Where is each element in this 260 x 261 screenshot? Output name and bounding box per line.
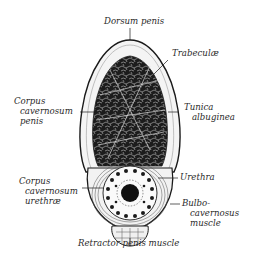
label-bulbocavernosus-muscle: Bulbo- cavernosus muscle — [182, 198, 239, 228]
label-trabeculae: Trabeculæ — [172, 48, 219, 58]
label-retractor-penis-muscle: Retractor penis muscle — [78, 238, 179, 248]
label-corpus-cavernosum-penis: Corpus cavernosum penis — [14, 96, 73, 126]
label-urethra: Urethra — [180, 172, 215, 182]
label-tunica-albuginea: Tunica albuginea — [184, 102, 235, 122]
cross-section-diagram: Dorsum penis Trabeculæ Corpus cavernosum… — [0, 0, 260, 261]
urethra-shape — [121, 184, 139, 202]
label-corpus-cavernosum-urethrae: Corpus cavernosum urethræ — [19, 176, 78, 206]
label-dorsum-penis: Dorsum penis — [104, 16, 164, 26]
